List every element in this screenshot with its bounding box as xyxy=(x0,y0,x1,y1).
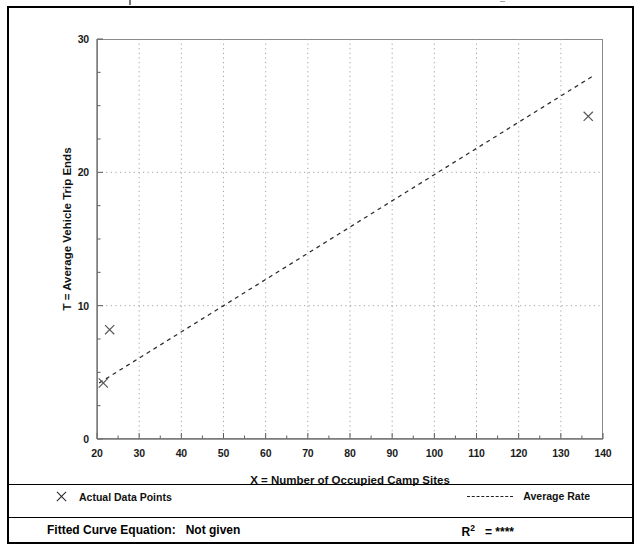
equation-row: Fitted Curve Equation: Not given R2 = **… xyxy=(9,517,632,546)
plot-area: 2030405060708090100110120130140 0102030 xyxy=(97,39,603,439)
r-squared-equals: = **** xyxy=(485,525,514,539)
axis-spines xyxy=(97,39,603,439)
x-tick-label: 140 xyxy=(595,447,612,459)
y-tick-label: 0 xyxy=(65,433,89,445)
legend-row: Actual Data Points Average Rate xyxy=(9,484,632,517)
legend-label-actual-points: Actual Data Points xyxy=(79,491,172,503)
r-squared-exponent: 2 xyxy=(470,523,475,533)
fitted-curve-value: Not given xyxy=(186,523,241,537)
x-tick-label: 120 xyxy=(510,447,527,459)
x-tick-label: 90 xyxy=(387,447,398,459)
x-tick-label: 60 xyxy=(260,447,271,459)
scan-artifact xyxy=(129,0,131,5)
x-tick-label: 110 xyxy=(468,447,484,459)
x-tick-label: 50 xyxy=(218,447,229,459)
dashed-line-icon xyxy=(467,496,513,497)
x-tick-label: 100 xyxy=(426,447,443,459)
x-tick-label: 40 xyxy=(176,447,187,459)
x-tick-label: 20 xyxy=(91,447,102,459)
legend-item-average-rate: Average Rate xyxy=(467,490,590,502)
r-squared-value: R2 = **** xyxy=(462,523,514,539)
legend-item-actual-points: Actual Data Points xyxy=(55,490,172,503)
fitted-curve-label: Fitted Curve Equation: xyxy=(47,523,176,537)
x-tick-label: 30 xyxy=(134,447,145,459)
y-axis-title: T = Average Vehicle Trip Ends xyxy=(61,79,73,379)
x-tick-label: 130 xyxy=(552,447,569,459)
fitted-curve-equation: Fitted Curve Equation: Not given xyxy=(47,523,240,537)
x-tick-label: 80 xyxy=(344,447,355,459)
legend-label-average-rate: Average Rate xyxy=(523,490,590,502)
chart-plate: 2030405060708090100110120130140 0102030 … xyxy=(7,6,634,544)
y-tick-label: 30 xyxy=(65,33,89,45)
chart-page: 2030405060708090100110120130140 0102030 … xyxy=(0,0,641,555)
x-tick-label: 70 xyxy=(302,447,313,459)
x-marker-icon xyxy=(55,490,68,503)
r-squared-label: R xyxy=(462,525,471,539)
scan-artifact xyxy=(500,1,505,2)
